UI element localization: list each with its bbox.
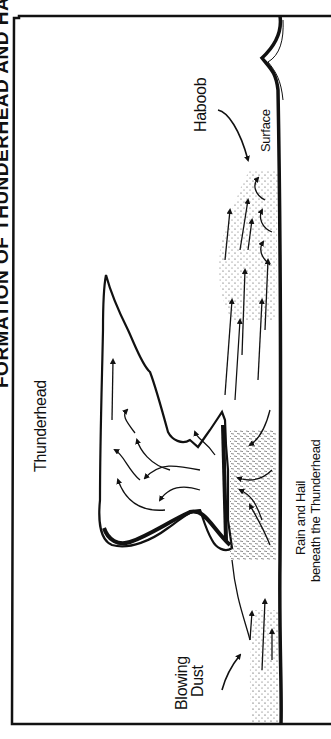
rain-hail-label-line2: beneath the Thunderhead <box>309 440 323 583</box>
haboob-dust-wall <box>219 170 278 320</box>
thunderhead-label: Thunderhead <box>33 380 50 472</box>
haboob-label: Haboob <box>193 78 210 132</box>
blowing-dust <box>250 610 279 722</box>
diagram-illustration <box>0 0 331 739</box>
rain-hail-shaft <box>230 430 276 560</box>
diagram-canvas: FORMATION OF THUNDERHEAD AND HABOOB <box>0 0 331 739</box>
rain-hail-label-line1: Rain and Hail <box>294 481 308 555</box>
frame <box>12 16 331 724</box>
haboob-pointer-arrow <box>218 110 248 160</box>
thunderhead-cloud <box>99 275 232 550</box>
blowing-dust-label-line2: Dust <box>190 665 207 697</box>
blowing-dust-pointer-arrow <box>222 655 240 690</box>
surface-label: Surface <box>259 109 273 152</box>
